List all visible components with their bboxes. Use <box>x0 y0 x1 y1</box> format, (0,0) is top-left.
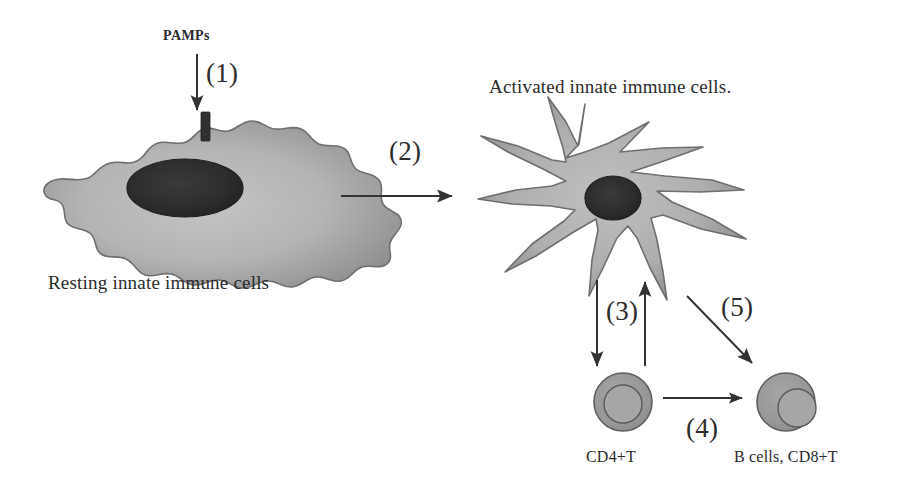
b-cell-cd8-t-cell <box>757 373 816 431</box>
step-5-label: (5) <box>721 292 753 323</box>
b-cells-cd8-t-label: B cells, CD8+T <box>734 448 838 466</box>
diagram-canvas: PAMPs (1) (2) (3) (4) (5) Resting innate… <box>0 0 900 500</box>
b-cell-nucleus <box>778 389 816 427</box>
cd4-t-cell <box>594 373 652 431</box>
cd4-t-cell-nucleus <box>604 385 642 423</box>
step-1-label: (1) <box>206 58 238 89</box>
activated-innate-immune-cell <box>478 97 746 300</box>
resting-innate-immune-cell <box>44 121 401 288</box>
immune-activation-figure <box>0 0 900 500</box>
resting-cell-label: Resting innate immune cells <box>48 272 269 294</box>
cd4-t-label: CD4+T <box>586 448 636 466</box>
activated-cell-nucleus <box>585 176 641 220</box>
step-3-label: (3) <box>606 296 638 327</box>
step-2-label: (2) <box>389 136 421 167</box>
membrane-receptor-icon <box>201 112 210 141</box>
step-4-label: (4) <box>686 413 718 444</box>
pamps-label: PAMPs <box>163 28 210 44</box>
resting-cell-nucleus <box>127 159 243 217</box>
activated-cell-label: Activated innate immune cells. <box>489 76 731 98</box>
